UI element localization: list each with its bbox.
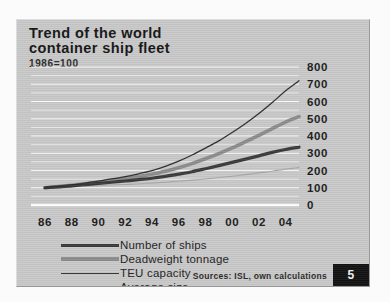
x-axis-tick-00: 00 xyxy=(225,216,239,228)
y-axis-tick-700: 700 xyxy=(307,79,328,90)
x-axis-tick-02: 02 xyxy=(252,216,266,228)
y-axis-tick-300: 300 xyxy=(307,148,328,159)
x-axis-labels: 86889092949698000204 xyxy=(29,216,301,232)
plot-svg xyxy=(29,63,301,213)
y-axis-tick-800: 800 xyxy=(307,62,328,73)
x-axis-tick-94: 94 xyxy=(145,216,159,228)
legend-label: Number of ships xyxy=(119,239,207,251)
legend-color-bar xyxy=(61,244,119,247)
page-number-badge: 5 xyxy=(333,264,369,286)
y-axis-tick-400: 400 xyxy=(307,131,328,142)
x-axis-tick-04: 04 xyxy=(279,216,293,228)
card-footer: Sources: ISL, own calculations 5 xyxy=(17,264,369,286)
page-title-line-2: container ship fleet xyxy=(29,41,309,56)
line-chart: 0100200300400500600700800 xyxy=(29,63,359,213)
legend-item: Number of ships xyxy=(61,238,321,252)
y-axis-tick-500: 500 xyxy=(307,113,328,124)
series-lines xyxy=(45,81,299,188)
legend-swatch-line xyxy=(61,257,119,261)
legend-color-bar xyxy=(61,287,119,288)
y-axis-tick-0: 0 xyxy=(307,200,314,211)
plot-area xyxy=(29,63,301,213)
y-axis-tick-100: 100 xyxy=(307,182,328,193)
source-note: Sources: ISL, own calculations xyxy=(193,271,327,281)
page-title-line-1: Trend of the world xyxy=(29,26,309,41)
x-axis-tick-98: 98 xyxy=(198,216,212,228)
x-axis-tick-86: 86 xyxy=(38,216,52,228)
infographic-card: Trend of the world container ship fleet … xyxy=(16,19,370,287)
y-axis-tick-200: 200 xyxy=(307,165,328,176)
legend-swatch-line xyxy=(61,287,119,288)
legend-color-bar xyxy=(61,257,119,261)
y-axis-tick-600: 600 xyxy=(307,96,328,107)
screenshot-root: Trend of the world container ship fleet … xyxy=(0,0,390,302)
x-axis-tick-96: 96 xyxy=(172,216,186,228)
legend-swatch-line xyxy=(61,244,119,247)
x-axis-tick-88: 88 xyxy=(65,216,79,228)
y-axis-labels: 0100200300400500600700800 xyxy=(307,63,359,213)
x-axis-tick-90: 90 xyxy=(91,216,105,228)
x-axis-tick-92: 92 xyxy=(118,216,132,228)
